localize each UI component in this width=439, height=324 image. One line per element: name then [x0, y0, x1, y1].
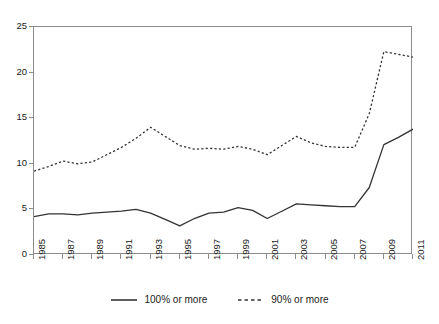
y-tick-label: 5 [4, 203, 27, 213]
series-line-100-percent-or-more [34, 129, 413, 226]
x-tick-mark [120, 254, 121, 259]
legend-label-100-percent-or-more: 100% or more [144, 295, 207, 305]
x-tick-mark [354, 254, 355, 259]
x-tick-label: 1991 [124, 239, 134, 260]
x-tick-mark [412, 254, 413, 259]
y-tick-mark [29, 208, 33, 209]
x-tick-mark [325, 254, 326, 259]
x-tick-label: 1989 [95, 239, 105, 260]
plot-area [33, 26, 412, 254]
y-tick-label: 10 [4, 158, 27, 168]
y-tick-mark [29, 163, 33, 164]
x-tick-label: 2005 [329, 239, 339, 260]
x-tick-label: 1995 [183, 239, 193, 260]
y-tick-label: 15 [4, 112, 27, 122]
x-tick-label: 2011 [416, 240, 426, 260]
x-tick-label: 2001 [270, 239, 280, 260]
chart-legend: 100% or more 90% or more [0, 295, 439, 305]
x-tick-label: 2007 [358, 239, 368, 260]
x-tick-label: 1985 [37, 239, 47, 260]
x-tick-mark [33, 254, 34, 259]
x-tick-mark [383, 254, 384, 259]
x-tick-mark [295, 254, 296, 259]
y-tick-label: 0 [4, 249, 27, 259]
plot-series-svg [34, 27, 413, 255]
x-tick-label: 1993 [154, 239, 164, 260]
x-tick-label: 1997 [212, 239, 222, 260]
legend-label-90-percent-or-more: 90% or more [271, 295, 328, 305]
x-tick-label: 2003 [299, 239, 309, 260]
line-chart-figure: 0510152025 19851987198919911993199519971… [0, 0, 439, 324]
x-tick-mark [179, 254, 180, 259]
legend-swatch-solid-line-icon [110, 296, 138, 304]
legend-swatch-dashed-line-icon [237, 296, 265, 304]
y-tick-mark [29, 117, 33, 118]
x-tick-mark [150, 254, 151, 259]
x-tick-mark [266, 254, 267, 259]
x-tick-label: 2009 [387, 239, 397, 260]
y-tick-mark [29, 72, 33, 73]
x-tick-label: 1987 [66, 239, 76, 260]
legend-item-100-percent-or-more: 100% or more [110, 295, 207, 305]
x-tick-mark [62, 254, 63, 259]
series-line-90-percent-or-more [34, 52, 413, 171]
x-tick-mark [237, 254, 238, 259]
y-tick-mark [29, 26, 33, 27]
x-tick-mark [208, 254, 209, 259]
x-tick-label: 1999 [241, 239, 251, 260]
x-tick-mark [91, 254, 92, 259]
y-tick-label: 25 [4, 21, 27, 31]
y-tick-label: 20 [4, 67, 27, 77]
legend-item-90-percent-or-more: 90% or more [237, 295, 328, 305]
